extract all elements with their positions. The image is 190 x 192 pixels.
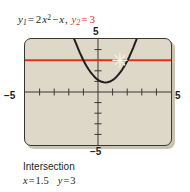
readout-y-value: 3 xyxy=(70,175,75,186)
window-label-xmin: −5 xyxy=(4,90,15,101)
y1-equals-sign: = xyxy=(27,13,35,25)
y1-equation: y1=2x2−x, xyxy=(18,13,69,25)
readout-values: x=1.5y=3 xyxy=(23,174,76,187)
intersection-cursor-icon[interactable] xyxy=(113,53,127,67)
graphing-calculator-figure: y1=2x2−x, y2=3 xyxy=(0,0,190,192)
window-label-ymax: 5 xyxy=(93,26,99,37)
y2-equation: y2=3 xyxy=(69,13,96,25)
y2-value: 3 xyxy=(88,13,96,25)
readout-x-value: 1.5 xyxy=(36,175,49,186)
readout-x-variable: x xyxy=(23,175,28,186)
calculator-screen[interactable] xyxy=(24,38,172,146)
readout-title: Intersection xyxy=(23,160,188,173)
window-label-ymin: −5 xyxy=(90,146,101,157)
readout-x-equals: = xyxy=(28,175,36,186)
plot-canvas xyxy=(25,39,171,145)
window-label-xmax: 5 xyxy=(175,90,181,101)
y1-minus-sign: − xyxy=(51,13,59,25)
equation-header: y1=2x2−x, y2=3 xyxy=(18,9,188,27)
